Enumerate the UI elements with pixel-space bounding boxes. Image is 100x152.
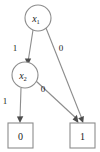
edge-x2-high-to-terminal-0[interactable]: 1: [3, 88, 24, 123]
terminal-node-1[interactable]: 1: [70, 123, 95, 148]
bdd-canvas: x2 --> 1 terminal 1 --> 0 terminal 0 -->…: [0, 0, 100, 152]
edge-label-x2-low: 0: [41, 84, 46, 94]
bdd-diagram: x2 --> 1 terminal 1 --> 0 terminal 0 -->…: [0, 0, 100, 152]
node-x1[interactable]: x1: [25, 5, 51, 31]
node-group: x1 x2 0 1: [8, 5, 95, 148]
arrowhead-x2-t0: [17, 116, 23, 123]
terminal-0-label: 0: [18, 131, 23, 142]
terminal-node-0[interactable]: 0: [8, 123, 33, 148]
edge-line-x1-t1: [46, 28, 82, 119]
terminal-1-label: 1: [80, 131, 85, 142]
node-x2-subscript: 2: [24, 75, 27, 82]
edge-label-x2-high: 1: [3, 96, 8, 106]
node-x1-subscript: 1: [37, 18, 40, 25]
edge-label-x1-high: 1: [13, 43, 18, 53]
edge-x1-high-to-x2[interactable]: 1: [13, 30, 33, 65]
edge-x2-low-to-terminal-1[interactable]: 0: [36, 81, 79, 123]
edge-x1-low-to-terminal-1[interactable]: 0: [46, 28, 84, 123]
edge-label-x1-low: 0: [59, 43, 64, 53]
edge-line-x1-x2: [28, 30, 33, 62]
node-x2[interactable]: x2: [12, 62, 38, 88]
edge-line-x2-t0: [20, 88, 21, 119]
